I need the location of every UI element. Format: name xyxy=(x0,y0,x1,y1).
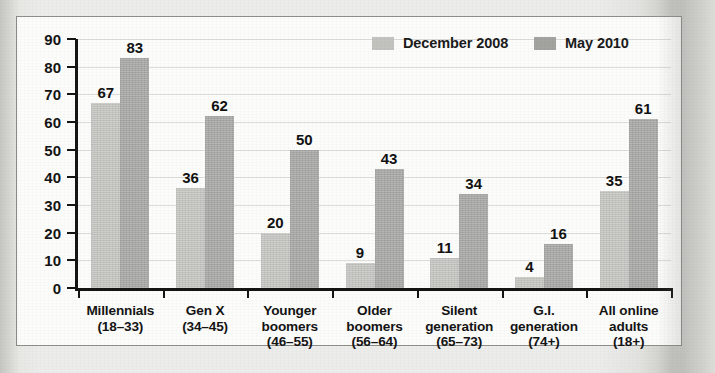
legend-item-may-2010: May 2010 xyxy=(534,35,629,51)
legend-swatch-may-2010 xyxy=(534,37,556,50)
x-tick xyxy=(671,288,673,298)
bar xyxy=(120,58,149,288)
bar xyxy=(375,169,404,288)
category-label: G.I.generation(74+) xyxy=(510,303,578,350)
bar xyxy=(515,277,544,288)
bar-texture xyxy=(600,191,629,288)
bar xyxy=(600,191,629,288)
bar-texture xyxy=(629,119,658,288)
bar-texture xyxy=(205,116,234,288)
y-axis-label-10: 10 xyxy=(35,253,61,268)
plot-area: 9080706050403020100 67833662205094311344… xyxy=(17,17,683,347)
bar-value-label: 61 xyxy=(635,101,652,116)
bar-value-label: 20 xyxy=(267,215,284,230)
y-axis-label-30: 30 xyxy=(35,198,61,213)
x-tick xyxy=(163,288,165,298)
y-axis-label-20: 20 xyxy=(35,225,61,240)
bar-texture xyxy=(544,244,573,288)
bar xyxy=(290,150,319,288)
bar xyxy=(346,263,375,288)
bar xyxy=(91,103,120,288)
chart-card: 9080706050403020100 67833662205094311344… xyxy=(16,16,682,346)
category-label-line: Older xyxy=(346,303,402,319)
category-label-line: G.I. xyxy=(510,303,578,319)
legend-label-december-2008: December 2008 xyxy=(403,35,508,51)
y-axis-label-50: 50 xyxy=(35,142,61,157)
bar-value-label: 11 xyxy=(437,240,453,255)
x-tick xyxy=(247,288,249,298)
bar-value-label: 67 xyxy=(98,85,115,100)
bar-value-label: 35 xyxy=(606,173,623,188)
bar-value-label: 36 xyxy=(182,170,199,185)
x-tick xyxy=(502,288,504,298)
category-label: Gen X(34–45) xyxy=(182,303,228,334)
category-label-line: (18+) xyxy=(599,334,659,350)
category-label-line: generation xyxy=(425,319,493,335)
category-label-line: (18–33) xyxy=(86,319,154,335)
x-tick xyxy=(332,288,334,298)
bar-texture xyxy=(176,188,205,288)
x-tick xyxy=(78,288,80,298)
category-label: Olderboomers(56–64) xyxy=(346,303,402,350)
y-axis-label-40: 40 xyxy=(35,170,61,185)
category-label-line: (46–55) xyxy=(262,334,318,350)
bar-texture xyxy=(261,233,290,288)
bar-value-label: 62 xyxy=(211,98,228,113)
bar-texture xyxy=(515,277,544,288)
bar xyxy=(176,188,205,288)
bar-texture xyxy=(91,103,120,288)
category-label-line: Gen X xyxy=(182,303,228,319)
bar-value-label: 9 xyxy=(356,245,364,260)
bar-texture xyxy=(459,194,488,288)
bar-value-label: 50 xyxy=(296,132,313,147)
y-axis-label-80: 80 xyxy=(35,59,61,74)
category-label: All onlineadults(18+) xyxy=(599,303,659,350)
bar-texture xyxy=(120,58,149,288)
y-axis-labels: 9080706050403020100 xyxy=(31,17,61,347)
y-axis-label-0: 0 xyxy=(35,281,61,296)
x-tick xyxy=(417,288,419,298)
bar xyxy=(261,233,290,288)
bar-value-label: 43 xyxy=(381,151,398,166)
category-label-line: boomers xyxy=(262,319,318,335)
category-label: Millennials(18–33) xyxy=(86,303,154,334)
category-label-line: Younger xyxy=(262,303,318,319)
bar-texture xyxy=(430,258,459,288)
bar-texture xyxy=(290,150,319,288)
bar xyxy=(459,194,488,288)
bar-value-label: 34 xyxy=(465,176,482,191)
category-label-line: (65–73) xyxy=(425,334,493,350)
category-label-line: Millennials xyxy=(86,303,154,319)
y-axis-label-90: 90 xyxy=(35,32,61,47)
category-label-line: (34–45) xyxy=(182,319,228,335)
category-label-line: (74+) xyxy=(510,334,578,350)
chart-legend: December 2008 May 2010 xyxy=(372,35,629,51)
category-label-line: adults xyxy=(599,319,659,335)
y-axis-label-60: 60 xyxy=(35,115,61,130)
legend-label-may-2010: May 2010 xyxy=(565,35,629,51)
bar xyxy=(629,119,658,288)
bar-texture xyxy=(346,263,375,288)
category-label-line: generation xyxy=(510,319,578,335)
bar xyxy=(205,116,234,288)
legend-swatch-december-2008 xyxy=(372,37,394,50)
category-label-line: All online xyxy=(599,303,659,319)
scanned-page: 9080706050403020100 67833662205094311344… xyxy=(0,0,715,373)
category-label-line: boomers xyxy=(346,319,402,335)
x-axis-category-labels: Millennials(18–33)Gen X(34–45)Youngerboo… xyxy=(78,303,671,365)
bar-value-label: 4 xyxy=(525,259,533,274)
category-label: Youngerboomers(46–55) xyxy=(262,303,318,350)
bar xyxy=(430,258,459,288)
category-label-line: (56–64) xyxy=(346,334,402,350)
bar-texture xyxy=(375,169,404,288)
bar-value-label: 16 xyxy=(550,226,567,241)
bars-layer: 67833662205094311344163561 xyxy=(78,39,671,288)
bar xyxy=(544,244,573,288)
y-axis-label-70: 70 xyxy=(35,87,61,102)
bar-value-label: 83 xyxy=(127,40,144,55)
category-label: Silentgeneration(65–73) xyxy=(425,303,493,350)
legend-item-december-2008: December 2008 xyxy=(372,35,508,51)
x-tick xyxy=(586,288,588,298)
category-label-line: Silent xyxy=(425,303,493,319)
